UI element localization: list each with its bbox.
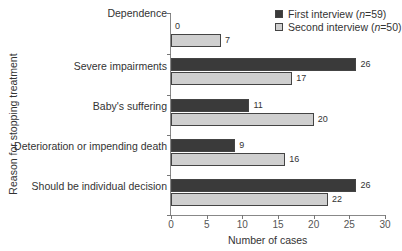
x-tick-label: 10 <box>237 219 248 230</box>
y-tick <box>167 54 171 55</box>
bar-first-interview <box>171 58 356 71</box>
legend-label-first: First interview (n=59) <box>288 8 386 20</box>
bar-second-interview <box>171 193 328 206</box>
bar-second-interview <box>171 113 314 126</box>
legend-label-second: Second interview (n=50) <box>288 21 402 33</box>
y-tick <box>167 13 171 14</box>
value-label: 22 <box>332 194 342 204</box>
bar-second-interview <box>171 72 292 85</box>
category-label: Should be individual decision <box>32 180 167 192</box>
bar-first-interview <box>171 99 249 112</box>
y-axis-title: Reason for stopping treatment <box>7 49 19 199</box>
value-label: 20 <box>318 114 328 124</box>
category-label: Deterioration or impending death <box>14 140 167 152</box>
value-label: 0 <box>175 21 180 31</box>
y-tick <box>167 95 171 96</box>
category-label: Baby's suffering <box>93 100 167 112</box>
bar-second-interview <box>171 153 285 166</box>
x-tick-label: 0 <box>168 219 174 230</box>
x-tick-label: 25 <box>344 219 355 230</box>
bar-first-interview <box>171 139 235 152</box>
x-tick-label: 15 <box>272 219 283 230</box>
category-label: Dependence <box>107 7 167 19</box>
value-label: 26 <box>360 59 370 69</box>
category-label: Severe impairments <box>74 60 167 72</box>
legend-item-first: First interview (n=59) <box>275 8 386 20</box>
value-label: 7 <box>225 35 230 45</box>
value-label: 9 <box>239 140 244 150</box>
legend-item-second: Second interview (n=50) <box>275 21 402 33</box>
bar-second-interview <box>171 34 221 47</box>
x-axis-title: Number of cases <box>228 234 307 246</box>
y-tick <box>167 135 171 136</box>
value-label: 11 <box>253 100 262 110</box>
bar-first-interview <box>171 179 356 192</box>
x-tick-label: 30 <box>379 219 390 230</box>
value-label: 17 <box>296 73 306 83</box>
x-tick-label: 5 <box>204 219 210 230</box>
value-label: 26 <box>360 180 370 190</box>
y-tick <box>167 175 171 176</box>
legend-swatch-second <box>275 23 283 31</box>
legend-swatch-first <box>275 10 283 18</box>
x-tick-label: 20 <box>308 219 319 230</box>
value-label: 16 <box>289 154 299 164</box>
